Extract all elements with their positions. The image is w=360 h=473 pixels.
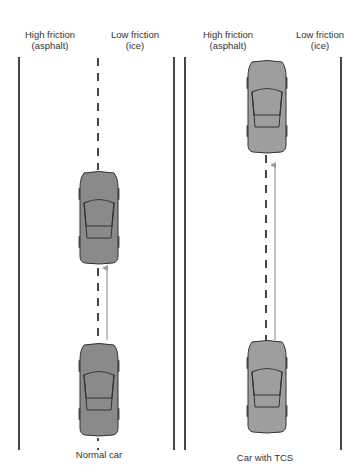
normal-car-lower xyxy=(79,344,120,437)
tcs-car-upper xyxy=(247,61,288,154)
normal-car-caption: Normal car xyxy=(39,449,159,460)
tcs-car-lower xyxy=(247,341,288,434)
traction-diagram xyxy=(0,0,360,473)
tcs-car-caption: Car with TCS xyxy=(205,452,325,463)
normal-car-upper xyxy=(79,172,120,265)
